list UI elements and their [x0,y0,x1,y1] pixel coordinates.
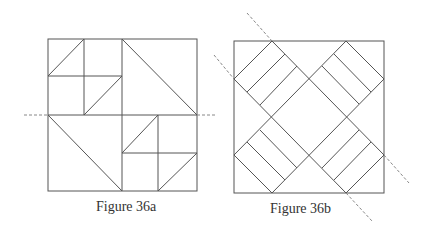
fig36b-fold-line-bottom [346,193,372,221]
fig36b-outer-square [234,41,384,193]
figure-36a [48,39,197,191]
figure-36b [234,41,384,193]
figure-36a-caption: Figure 36a [96,199,156,215]
figure-36b-caption: Figure 36b [270,201,331,217]
fig36b-fold-line-top [247,13,272,41]
diagram-canvas [0,0,430,231]
fig36b-fold-line-left [214,55,234,79]
fig36b-fold-line-right [384,155,409,183]
